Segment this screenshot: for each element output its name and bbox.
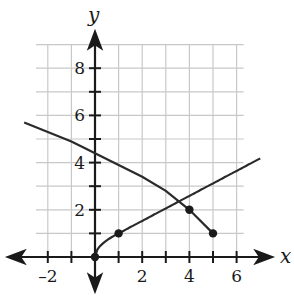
y-tick-label: 6	[74, 105, 85, 125]
x-tick-label: 6	[231, 266, 242, 286]
grid-lines	[36, 45, 244, 257]
x-axis-label: x	[280, 244, 291, 268]
y-axis-label: y	[87, 3, 100, 27]
increasing-curve	[95, 158, 260, 257]
x-tick-label: 4	[184, 266, 195, 286]
data-point	[209, 229, 217, 237]
data-point	[91, 253, 99, 261]
data-point	[114, 229, 122, 237]
graph: –22462468 x y	[0, 0, 294, 301]
x-tick-label: –2	[38, 266, 57, 286]
data-point	[185, 206, 193, 214]
y-tick-label: 4	[74, 153, 85, 173]
y-tick-label: 2	[74, 200, 85, 220]
x-tick-label: 2	[137, 266, 148, 286]
y-tick-label: 8	[74, 58, 85, 78]
